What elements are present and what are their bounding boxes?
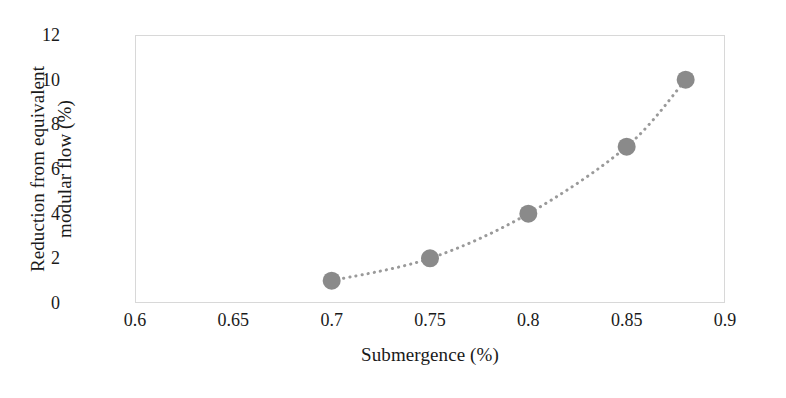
x-axis-tick-label: 0.75 [395,311,465,329]
y-axis-tick-label: 12 [0,26,60,44]
x-axis-tick-label: 0.6 [100,311,170,329]
y-axis-tick-label: 4 [0,205,60,223]
x-axis-title: Submergence (%) [135,344,725,366]
y-axis-tick-label: 6 [0,160,60,178]
x-axis-tick-label: 0.7 [297,311,367,329]
x-axis-tick-label: 0.65 [198,311,268,329]
x-axis-tick-label: 0.85 [592,311,662,329]
y-axis-tick-label: 2 [0,249,60,267]
chart-figure: Reduction from equivalent modular flow (… [0,0,786,398]
x-axis-tick-label: 0.8 [493,311,563,329]
x-axis-tick-label: 0.9 [690,311,760,329]
plot-area [135,35,725,303]
y-axis-tick-label: 8 [0,115,60,133]
y-axis-tick-label: 0 [0,294,60,312]
y-axis-tick-label: 10 [0,71,60,89]
